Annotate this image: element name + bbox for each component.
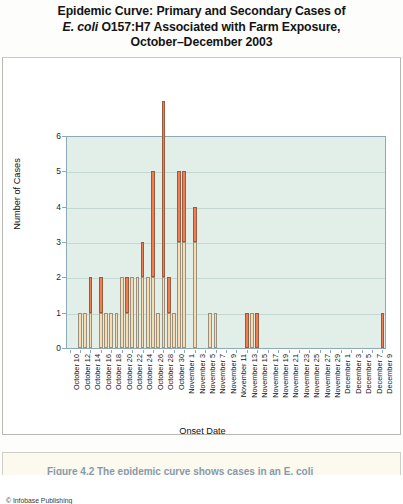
bar-column [214,313,218,348]
bar-segment-secondary [193,207,197,242]
x-axis-tick-label: December 7 [375,354,384,394]
x-axis-tick-mark [320,350,321,353]
x-axis-tick-mark [216,350,217,353]
x-axis-tick-label: October 30 [177,354,186,390]
x-axis-tick-label: October 10 [72,354,81,390]
bar-column [177,171,181,348]
x-axis-tick-mark [122,350,123,353]
x-axis-tick-mark [330,350,331,353]
x-axis-tick-mark [80,350,81,353]
x-axis-tick-mark [278,350,279,353]
y-axis-tick-label: 0 [45,343,61,353]
bar-segment-primary [136,277,140,348]
chart-title: Epidemic Curve: Primary and Secondary Ca… [0,4,403,51]
x-axis-tick-label: October 12 [83,354,92,390]
bar-segment-primary [208,313,212,348]
bar-column [130,277,134,348]
x-axis-tick-label: October 14 [93,354,102,390]
bar-segment-secondary [125,277,129,312]
bar-column [172,313,176,348]
bar-column [193,207,197,348]
y-axis-tick-label: 1 [45,308,61,318]
chart-title-line-1: Epidemic Curve: Primary and Secondary Ca… [0,4,403,20]
x-axis-tick-label: December 5 [364,354,373,394]
x-axis-tick-mark [362,350,363,353]
bar-segment-secondary [177,171,181,242]
chart-title-line-2: E. coli O157:H7 Associated with Farm Exp… [0,20,403,36]
y-axis-tick-label: 3 [45,237,61,247]
x-axis-tick-mark [195,350,196,353]
bar-segment-secondary [141,242,145,277]
bar-column [115,313,119,348]
x-axis-tick-label: November 13 [250,354,259,398]
bar-column [381,313,385,348]
x-axis-tick-mark [268,350,269,353]
x-axis-tick-label: December 9 [385,354,394,394]
bar-column [83,313,87,348]
bar-segment-primary [83,313,87,348]
bar-column [182,171,186,348]
x-axis-tick-labels: October 10October 12October 14October 16… [67,350,384,422]
y-axis-tick-mark [62,313,66,314]
x-axis-tick-label: November 29 [333,354,342,398]
y-axis-tick-mark [62,277,66,278]
x-axis-tick-label: November 21 [291,354,300,398]
bar-column [151,171,155,348]
x-axis-tick-mark [101,350,102,353]
bar-segment-primary [156,313,160,348]
x-axis-tick-label: October 28 [166,354,175,390]
chart-frame: 0123456 Number of Cases October 10Octobe… [2,57,401,435]
figure-caption: Figure 4.2 The epidemic curve shows case… [47,466,313,475]
bar-segment-primary [162,277,166,348]
x-axis-tick-label: November 9 [229,354,238,394]
x-axis-tick-label: November 1 [187,354,196,394]
x-axis-tick-mark [90,350,91,353]
y-axis-tick-label: 2 [45,272,61,282]
bar-segment-primary [120,277,124,348]
x-axis-tick-mark [299,350,300,353]
bar-column [125,277,129,348]
x-axis-tick-label: November 17 [271,354,280,398]
y-axis-tick-label: 6 [45,131,61,141]
y-axis-title: Number of Cases [12,94,22,294]
bar-segment-primary [125,313,129,348]
x-axis-tick-mark [309,350,310,353]
x-axis-tick-mark [174,350,175,353]
bar-segment-primary [104,313,108,348]
x-axis-tick-mark [163,350,164,353]
chart-title-line-2-rest: O157:H7 Associated with Farm Exposure, [98,20,340,34]
x-axis-tick-label: October 22 [135,354,144,390]
x-axis-tick-label: December 1 [343,354,352,394]
y-axis-tick-labels: 0123456 [41,58,61,436]
x-axis-tick-mark [143,350,144,353]
x-axis-tick-label: October 26 [156,354,165,390]
bar-segment-primary [78,313,82,348]
y-axis-tick-mark [62,136,66,137]
bar-segment-secondary [182,171,186,242]
bar-segment-primary [130,277,134,348]
x-axis-title: Onset Date [3,426,402,436]
x-axis-tick-label: October 16 [104,354,113,390]
x-axis-tick-label: November 11 [239,354,248,397]
bar-column [136,277,140,348]
bar-segment-primary [115,313,119,348]
x-axis-tick-mark [289,350,290,353]
x-axis-tick-label: November 5 [208,354,217,394]
bar-segment-primary [167,313,171,348]
bar-segment-secondary [162,101,166,278]
bar-column [89,277,93,348]
bar-segment-secondary [245,313,249,348]
x-axis-tick-label: October 20 [125,354,134,390]
bar-column [162,101,166,348]
bar-column [208,313,212,348]
x-axis-tick-mark [372,350,373,353]
bar-segment-secondary [255,313,259,348]
bar-segment-primary [214,313,218,348]
bar-column [156,313,160,348]
x-axis-tick-label: November 25 [312,354,321,398]
x-axis-tick-mark [351,350,352,353]
bar-segment-primary [146,277,150,348]
y-axis-tick-mark [62,171,66,172]
x-axis-tick-label: November 7 [218,354,227,394]
x-axis-tick-label: October 18 [114,354,123,390]
